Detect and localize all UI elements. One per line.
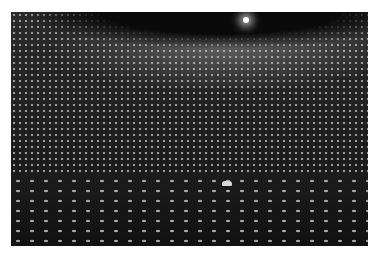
inflatable-boat <box>222 181 232 186</box>
detector-photo: Photomultiplier tube array inside detect… <box>11 12 368 246</box>
tank-floor-pmt-grid <box>11 176 368 246</box>
ceiling-light <box>243 17 249 23</box>
tank-wall-pmt-grid <box>11 12 368 180</box>
